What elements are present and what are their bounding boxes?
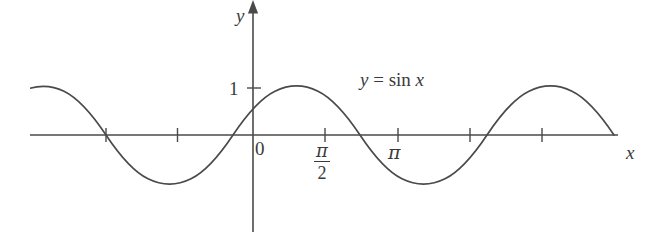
equation-equals: =	[368, 69, 388, 90]
equation-function-name: sin	[389, 69, 411, 90]
y-axis-label: y	[236, 6, 244, 25]
fraction-numerator: π	[314, 141, 330, 161]
x-tick-label-pi-over-two: π 2	[314, 141, 330, 184]
fraction-pi-over-two: π 2	[314, 141, 330, 184]
x-axis-label: x	[626, 143, 634, 162]
origin-label: 0	[255, 139, 265, 158]
fraction-bar	[314, 161, 330, 162]
x-tick-label-pi: π	[388, 143, 401, 162]
sine-graph-figure: y x 1 0 π π 2 y = sin x	[0, 0, 655, 244]
y-tick-label-one: 1	[229, 79, 239, 98]
curve-equation-label: y = sin x	[360, 70, 424, 89]
fraction-denominator: 2	[314, 163, 330, 183]
plot-canvas	[0, 0, 655, 244]
equation-argument: x	[411, 69, 424, 90]
